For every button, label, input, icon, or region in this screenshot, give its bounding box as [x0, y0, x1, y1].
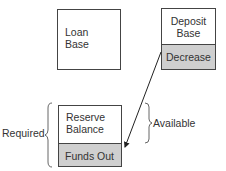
loan-base-line2: Base: [65, 38, 120, 50]
required-brace-icon: [45, 103, 52, 167]
funds-out-segment: Funds Out: [59, 143, 121, 166]
deposit-base-box: Deposit Base Decrease: [161, 8, 216, 70]
funds-out-label: Funds Out: [65, 150, 114, 162]
deposit-base-line2: Base: [162, 27, 215, 39]
reserve-balance-label: Reserve Balance: [59, 111, 121, 135]
decrease-segment: Decrease: [162, 44, 215, 69]
available-brace-icon: [145, 103, 152, 143]
reserve-balance-line1: Reserve: [66, 111, 121, 123]
deposit-base-label: Deposit Base: [162, 15, 215, 39]
loan-base-box: Loan Base: [57, 9, 121, 70]
reserve-balance-box: Reserve Balance Funds Out: [58, 105, 122, 167]
loan-base-line1: Loan: [65, 26, 120, 38]
available-label: Available: [153, 117, 195, 129]
decrease-to-funds-out-arrow: [125, 52, 161, 147]
required-label: Required: [2, 127, 45, 139]
loan-base-label: Loan Base: [58, 26, 120, 50]
decrease-label: Decrease: [166, 51, 211, 63]
reserve-balance-line2: Balance: [66, 123, 121, 135]
deposit-base-line1: Deposit: [162, 15, 215, 27]
